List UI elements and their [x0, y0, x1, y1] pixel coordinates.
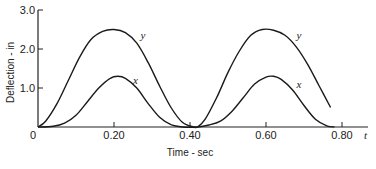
- series-label-x: x: [132, 74, 138, 86]
- series-y-line: [38, 29, 331, 128]
- y-tick-label: 2.0: [20, 43, 35, 55]
- series-label-y: y: [295, 29, 301, 41]
- x-tick-label: 0: [30, 129, 36, 141]
- y-tick-label: 3.0: [20, 4, 35, 16]
- series-label-y: y: [140, 29, 146, 41]
- x-tick-label: 0.60: [255, 129, 276, 141]
- y-tick-label: 1.0: [20, 82, 35, 94]
- x-tick-label: 0.40: [179, 129, 200, 141]
- x-axis-symbol: t: [364, 129, 368, 141]
- series-label-x: x: [295, 78, 301, 90]
- x-axis-title: Time - sec: [167, 147, 213, 158]
- x-tick-label: 0.80: [331, 129, 352, 141]
- plot-area: [38, 29, 334, 128]
- x-tick-label: 0.20: [103, 129, 124, 141]
- y-axis-title: Deflection - in: [5, 42, 16, 103]
- series-x-line: [38, 76, 334, 127]
- deflection-chart: 00.200.400.600.80t1.02.03.0 Time - secDe…: [0, 0, 376, 169]
